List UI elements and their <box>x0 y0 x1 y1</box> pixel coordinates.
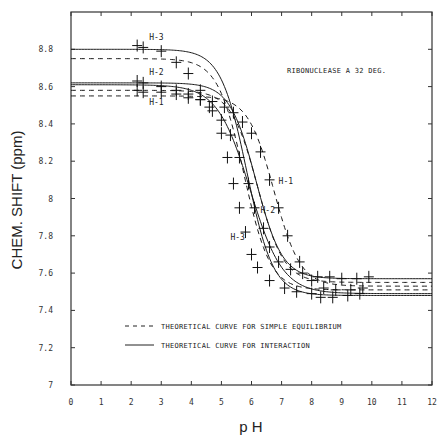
x-tick-label: 4 <box>189 398 194 407</box>
data-point-marker <box>364 271 374 283</box>
x-tick-label: 2 <box>129 398 134 407</box>
data-point-marker <box>247 127 257 139</box>
y-tick-label: 7 <box>48 381 53 390</box>
x-tick-label: 7 <box>279 398 284 407</box>
y-tick-label: 8.2 <box>39 157 54 166</box>
data-point-marker <box>265 275 275 287</box>
x-tick-label: 9 <box>339 398 344 407</box>
y-tick-label: 7.2 <box>39 344 54 353</box>
titration-chart: 0123456789101112 77.27.47.67.888.28.48.6… <box>0 0 444 442</box>
x-tick-label: 6 <box>249 398 254 407</box>
x-tick-label: 3 <box>159 398 164 407</box>
x-tick-label: 0 <box>69 398 74 407</box>
y-tick-label: 8.6 <box>39 83 54 92</box>
chart-annotation-title: RIBONUCLEASE A 32 DEG. <box>287 67 386 75</box>
y-tick-label: 7.6 <box>39 269 54 278</box>
x-tick-label: 11 <box>397 398 407 407</box>
x-tick-label: 10 <box>367 398 377 407</box>
data-point-marker <box>352 273 362 285</box>
data-point-marker <box>253 262 263 274</box>
curve-label: H-1 <box>279 177 294 186</box>
data-point-marker <box>216 114 226 126</box>
data-point-marker <box>274 256 284 268</box>
curve-label: H-3 <box>230 233 245 242</box>
interaction-curve <box>71 85 432 294</box>
data-point-marker <box>237 116 247 128</box>
y-axis-ticks: 77.27.47.67.888.28.48.68.8 <box>39 45 432 390</box>
data-point-marker <box>225 129 235 141</box>
data-point-marker <box>222 151 232 163</box>
data-point-marker <box>259 222 269 234</box>
data-point-marker <box>298 267 308 279</box>
data-point-marker <box>234 202 244 214</box>
data-point-marker <box>280 282 290 294</box>
y-tick-label: 8.4 <box>39 120 54 129</box>
y-tick-label: 7.4 <box>39 306 54 315</box>
data-point-marker <box>265 174 275 186</box>
data-point-marker <box>138 41 148 53</box>
data-point-marker <box>195 94 205 106</box>
legend-dashed-label: THEORETICAL CURVE FOR SIMPLE EQUILIBRIUM <box>161 323 342 331</box>
data-point-marker <box>228 178 238 190</box>
data-point-marker <box>295 256 305 268</box>
x-tick-label: 5 <box>219 398 224 407</box>
x-tick-label: 8 <box>309 398 314 407</box>
y-tick-label: 8.8 <box>39 45 54 54</box>
y-axis-title: CHEM. SHIFT (ppm) <box>8 131 25 270</box>
data-point-marker <box>216 127 226 139</box>
data-point-marker <box>132 84 142 96</box>
data-point-marker <box>283 230 293 242</box>
legend-solid-label: THEORETICAL CURVE FOR INTERACTION <box>161 342 310 350</box>
data-point-marker <box>171 56 181 68</box>
x-axis-title: p H <box>239 418 262 435</box>
curve-label: H-2 <box>261 206 276 215</box>
y-tick-label: 8 <box>48 195 53 204</box>
x-tick-label: 12 <box>427 398 437 407</box>
data-point-marker <box>183 68 193 80</box>
data-point-marker <box>156 45 166 57</box>
y-tick-label: 7.8 <box>39 232 54 241</box>
legend: THEORETICAL CURVE FOR SIMPLE EQUILIBRIUM… <box>125 323 342 350</box>
data-point-marker <box>292 286 302 298</box>
curve-label: H-3 <box>149 33 164 42</box>
data-point-marker <box>274 202 284 214</box>
curve-label: H-1 <box>149 98 164 107</box>
x-tick-label: 1 <box>99 398 104 407</box>
data-point-marker <box>247 248 257 260</box>
data-point-marker <box>265 241 275 253</box>
data-point-marker <box>337 273 347 285</box>
curve-label: H-2 <box>149 68 164 77</box>
